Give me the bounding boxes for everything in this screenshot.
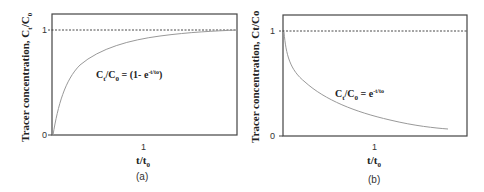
y-axis-label-a: Tracer concentration, Ct/C0 bbox=[19, 12, 34, 142]
x-tick-1-a: 1 bbox=[141, 142, 146, 152]
y-tick-0-b: 0 bbox=[270, 131, 275, 141]
panel-b: 1 0 1 t/t0 (b) Tracer concentration, Ct/… bbox=[249, 10, 467, 185]
figure: 1 0 1 t/t0 (a) Tracer concentration, Ct/… bbox=[0, 0, 484, 192]
curve-b bbox=[284, 32, 448, 129]
x-tick-1-b: 1 bbox=[372, 142, 377, 152]
y-tick-0-a: 0 bbox=[42, 130, 47, 140]
x-axis-label-b: t/t0 bbox=[367, 154, 381, 169]
plot-frame-b bbox=[283, 15, 467, 136]
curve-a bbox=[53, 30, 237, 135]
panel-caption-b: (b) bbox=[368, 174, 380, 185]
panel-caption-a: (a) bbox=[136, 171, 148, 182]
y-tick-1-b: 1 bbox=[270, 26, 275, 36]
x-axis-label-a: t/t0 bbox=[136, 154, 150, 169]
equation-b: Ct/C0 = e-t/to bbox=[335, 88, 384, 102]
y-axis-label-b: Tracer concentration, Ct/Co bbox=[249, 10, 261, 143]
y-tick-1-a: 1 bbox=[42, 25, 47, 35]
panel-a: 1 0 1 t/t0 (a) Tracer concentration, Ct/… bbox=[19, 12, 237, 182]
equation-a: Ct/C0 = (1- e-t/to) bbox=[96, 69, 162, 83]
